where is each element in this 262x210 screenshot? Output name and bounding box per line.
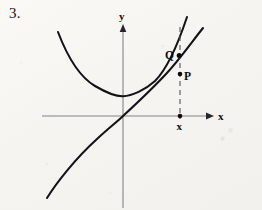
y-axis-label: y — [119, 10, 125, 22]
x-axis-arrowhead — [206, 113, 214, 120]
axes-group: x y — [42, 10, 224, 208]
point-p-marker — [178, 72, 183, 77]
math-figure: x y Q P x — [0, 0, 262, 210]
point-q-label: Q — [165, 49, 174, 61]
x-axis-label: x — [218, 110, 224, 122]
point-q-marker — [177, 53, 182, 58]
x-tick-marker — [178, 114, 183, 119]
figure-page: 3. x y Q P x — [0, 0, 262, 210]
y-axis-arrowhead — [120, 24, 127, 32]
point-p-label: P — [184, 70, 191, 82]
x-value-label: x — [177, 120, 183, 132]
